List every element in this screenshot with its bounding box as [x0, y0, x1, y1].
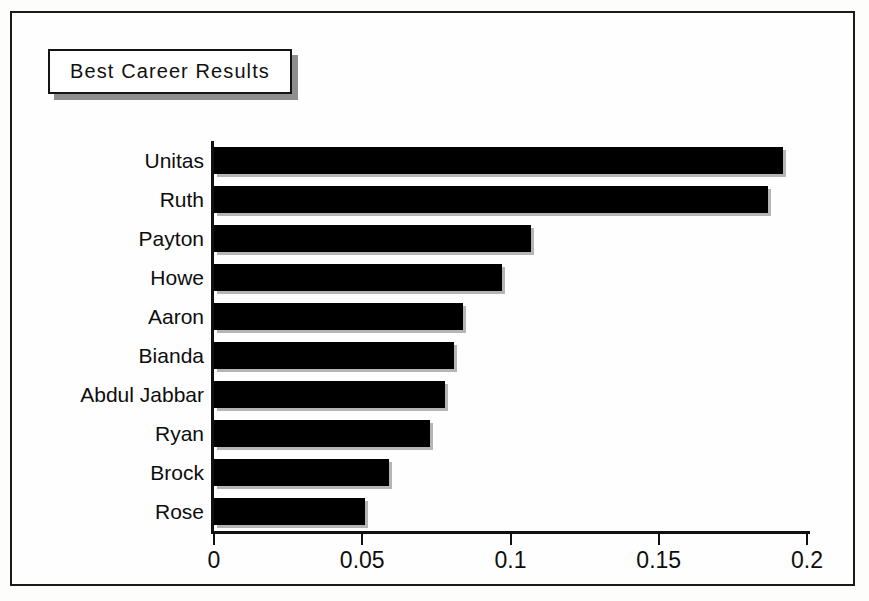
category-label: Abdul Jabbar	[80, 383, 204, 407]
category-label: Brock	[150, 461, 204, 485]
category-label: Rose	[155, 500, 204, 524]
chart-page: Best Career Results UnitasRuthPaytonHowe…	[0, 0, 869, 601]
x-tick-mark	[213, 534, 215, 545]
bar	[214, 420, 430, 447]
x-tick-mark	[361, 534, 363, 545]
page-title: Best Career Results	[70, 60, 270, 83]
x-tick-label: 0.2	[791, 547, 823, 574]
category-label: Howe	[150, 266, 204, 290]
chart-frame: Best Career Results UnitasRuthPaytonHowe…	[10, 11, 855, 586]
bar	[214, 498, 365, 525]
category-label: Ryan	[155, 422, 204, 446]
bar	[214, 303, 463, 330]
x-tick-label: 0.1	[495, 547, 527, 574]
bar	[214, 225, 531, 252]
category-label: Aaron	[148, 305, 204, 329]
category-label: Bianda	[139, 344, 204, 368]
bar	[214, 147, 783, 174]
plot-area: UnitasRuthPaytonHoweAaronBiandaAbdul Jab…	[214, 141, 807, 531]
bar	[214, 459, 389, 486]
category-label: Ruth	[160, 188, 204, 212]
title-box-border: Best Career Results	[48, 49, 292, 94]
chart-title-box: Best Career Results	[48, 49, 296, 98]
category-label: Unitas	[144, 149, 204, 173]
x-tick-label: 0.15	[636, 547, 681, 574]
x-tick-mark	[658, 534, 660, 545]
bar	[214, 381, 445, 408]
x-tick-label: 0	[208, 547, 221, 574]
x-tick-label: 0.05	[340, 547, 385, 574]
x-tick-mark	[806, 534, 808, 545]
bar	[214, 264, 502, 291]
x-tick-mark	[510, 534, 512, 545]
bar	[214, 186, 768, 213]
bar	[214, 342, 454, 369]
category-label: Payton	[139, 227, 204, 251]
